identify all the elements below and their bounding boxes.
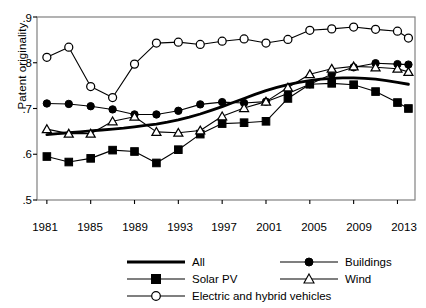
legend-label-buildings: Buildings: [345, 256, 392, 268]
legend-label-all: All: [192, 256, 205, 268]
legend-item-solar-pv: Solar PV: [125, 272, 237, 286]
legend-item-all: All: [125, 255, 205, 269]
series-electric-and-hybrid-vehicles: [43, 23, 413, 101]
legend-key-buildings: [278, 255, 340, 269]
legend-key-solar-pv: [125, 272, 187, 286]
legend-item-electric-hybrid-vehicles: Electric and hybrid vehicles: [125, 289, 331, 303]
legend-key-electric-hybrid-vehicles: [125, 289, 187, 303]
legend-label-wind: Wind: [345, 273, 371, 285]
patent-originality-figure: Patent originality .9 .8 .7 .6 .5 1981 1…: [0, 0, 426, 308]
legend-item-wind: Wind: [278, 272, 371, 286]
legend-label-solar-pv: Solar PV: [192, 273, 237, 285]
legend-key-all: [125, 255, 187, 269]
legend-label-electric-hybrid-vehicles: Electric and hybrid vehicles: [192, 290, 331, 302]
legend-key-wind: [278, 272, 340, 286]
legend-item-buildings: Buildings: [278, 255, 392, 269]
chart-legend: All Buildings Solar PV Wind Electric and: [0, 250, 426, 308]
series-wind: [42, 62, 413, 137]
series-solar-pv: [43, 80, 412, 167]
